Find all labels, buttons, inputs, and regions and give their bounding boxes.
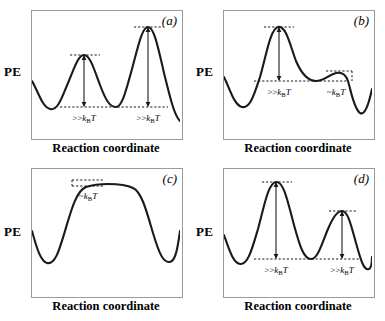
barrier-label-b1: >>kBT bbox=[267, 87, 292, 98]
x-axis-label-c: Reaction coordinate bbox=[31, 299, 181, 314]
y-axis-label-d: PE bbox=[196, 224, 213, 240]
panel-letter-d: (d) bbox=[354, 171, 369, 187]
plot-d: >>kBT >>kBT bbox=[224, 169, 372, 295]
plot-frame-d: >>kBT >>kBT (d) bbox=[223, 168, 375, 298]
x-axis-label-a: Reaction coordinate bbox=[31, 141, 181, 156]
figure-grid: PE >>kBT >>kBT (a) Reaction coordinate P… bbox=[0, 0, 385, 321]
y-axis-label-a: PE bbox=[4, 64, 21, 80]
energy-curve-d bbox=[224, 182, 372, 269]
y-axis-label-b: PE bbox=[196, 64, 213, 80]
panel-letter-a: (a) bbox=[162, 13, 177, 29]
arrowhead-down-d2 bbox=[340, 254, 345, 259]
plot-b: >>kBT ~kBT bbox=[224, 11, 372, 137]
panel-c: PE ~kBT (c) Reaction coordinate bbox=[0, 160, 193, 321]
plot-frame-a: >>kBT >>kBT (a) bbox=[31, 10, 183, 140]
panel-a: PE >>kBT >>kBT (a) Reaction coordinate bbox=[0, 0, 193, 160]
y-axis-label-c: PE bbox=[4, 224, 21, 240]
panel-b: PE >>kBT ~kBT (b) Reaction coordinate bbox=[193, 0, 385, 160]
arrowhead-down-d1 bbox=[274, 254, 279, 259]
arrowhead-down-b bbox=[277, 76, 282, 81]
energy-curve-c bbox=[32, 184, 180, 263]
arrowhead-down-a1 bbox=[82, 102, 87, 107]
plot-frame-b: >>kBT ~kBT (b) bbox=[223, 10, 375, 140]
panel-d: PE >>kBT >>kBT (d) Reaction coordinate bbox=[193, 160, 385, 321]
panel-letter-c: (c) bbox=[163, 171, 177, 187]
barrier-label-a1: >>kBT bbox=[72, 113, 97, 124]
barrier-label-d2: >>kBT bbox=[330, 265, 355, 276]
x-axis-label-b: Reaction coordinate bbox=[223, 141, 373, 156]
energy-curve-b bbox=[224, 27, 372, 114]
barrier-label-d1: >>kBT bbox=[264, 265, 289, 276]
panel-letter-b: (b) bbox=[354, 13, 369, 29]
barrier-label-a2: >>kBT bbox=[136, 113, 161, 124]
plot-frame-c: ~kBT (c) bbox=[31, 168, 183, 298]
plot-a: >>kBT >>kBT bbox=[32, 11, 180, 137]
barrier-label-c: ~kBT bbox=[79, 191, 98, 202]
barrier-label-b2: ~kBT bbox=[327, 87, 346, 98]
x-axis-label-d: Reaction coordinate bbox=[223, 299, 373, 314]
plot-c: ~kBT bbox=[32, 169, 180, 295]
arrowhead-down-a2 bbox=[146, 102, 151, 107]
